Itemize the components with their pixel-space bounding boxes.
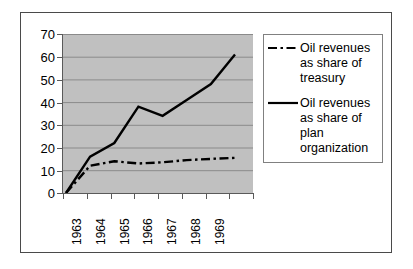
x-tick-mark-5 <box>182 194 183 199</box>
x-tick-mark-6 <box>206 194 207 199</box>
x-tick-label-1968: 1968 <box>190 218 202 245</box>
x-tick-mark-0 <box>63 194 64 199</box>
legend-label-treasury-line1: Oil revenues <box>300 41 370 55</box>
y-tick-label-60: 60 <box>25 51 55 64</box>
y-tick-label-20: 20 <box>25 142 55 155</box>
x-tick-mark-4 <box>158 194 159 199</box>
y-tick-label-10: 10 <box>25 165 55 178</box>
y-tick-label-40: 40 <box>25 97 55 110</box>
x-tick-mark-8 <box>253 194 254 199</box>
series-line-treasury <box>66 158 235 193</box>
y-tick-label-70: 70 <box>25 28 55 41</box>
x-tick-mark-2 <box>111 194 112 199</box>
x-tick-mark-3 <box>134 194 135 199</box>
x-tick-label-1963: 1963 <box>71 218 83 245</box>
legend-entry-plan-organization: Oil revenues as share of plan organizati… <box>268 96 378 156</box>
y-tick-label-50: 50 <box>25 74 55 87</box>
y-tick-label-0: 0 <box>25 187 55 200</box>
legend-label-plan-line2: as share of <box>300 111 362 125</box>
x-tick-label-1969: 1969 <box>214 218 226 245</box>
x-tick-label-1966: 1966 <box>142 218 154 245</box>
legend-entry-treasury: Oil revenues as share of treasury <box>268 41 378 86</box>
solid-line-sample-svg <box>268 96 298 110</box>
legend-label-plan-line1: Oil revenues <box>300 96 370 110</box>
dash-dot-line-sample <box>268 41 298 55</box>
plot-svg <box>63 34 253 193</box>
legend-label-plan-line3: plan <box>300 126 324 140</box>
dash-dot-line-sample-svg <box>268 41 298 55</box>
legend-label-plan-organization: Oil revenues as share of plan organizati… <box>300 96 370 156</box>
x-tick-label-1964: 1964 <box>95 218 107 245</box>
legend-label-treasury: Oil revenues as share of treasury <box>300 41 370 86</box>
gridlines <box>63 35 253 171</box>
x-tick-label-1967: 1967 <box>166 218 178 245</box>
legend-label-plan-line4: organization <box>300 141 368 155</box>
legend-label-treasury-line3: treasury <box>300 71 345 85</box>
x-tick-mark-1 <box>87 194 88 199</box>
y-tick-label-30: 30 <box>25 119 55 132</box>
y-axis-line <box>62 34 63 194</box>
x-tick-label-1965: 1965 <box>119 218 131 245</box>
chart-legend: Oil revenues as share of treasury Oil re… <box>263 34 383 163</box>
chart-figure: 70 60 50 40 30 20 10 0 <box>20 12 392 253</box>
x-tick-mark-7 <box>229 194 230 199</box>
solid-line-sample <box>268 96 298 110</box>
series-line-plan-organization <box>66 54 235 193</box>
legend-label-treasury-line2: as share of <box>300 56 362 70</box>
plot-area <box>63 34 253 193</box>
